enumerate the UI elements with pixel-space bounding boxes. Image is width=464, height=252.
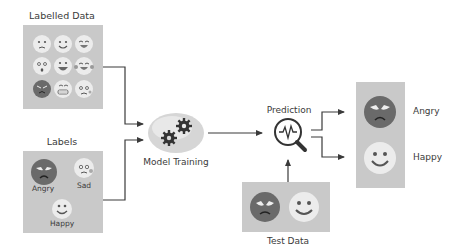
diagram-graphics: [0, 0, 464, 252]
label-angry-text: Angry: [32, 184, 54, 193]
test-data-faces: [250, 192, 319, 222]
prediction-node: [275, 119, 305, 150]
face-grimace-icon: [54, 80, 72, 98]
label-happy-face-icon: [52, 199, 72, 219]
model-training-node: [148, 113, 204, 153]
face-surprised-icon: [33, 57, 51, 75]
results-faces: [364, 96, 396, 174]
result-happy-label: Happy: [413, 152, 442, 162]
connector-lines: [103, 67, 344, 200]
label-sad-text: Sad: [77, 181, 91, 190]
test-angry-face-icon: [250, 192, 280, 222]
result-angry-label: Angry: [413, 106, 440, 116]
result-angry-face-icon: [364, 96, 396, 128]
magnifier-handle-icon: [297, 142, 305, 150]
face-laugh-tears-icon: [74, 57, 94, 75]
face-angry-icon: [33, 80, 51, 98]
face-laugh-icon: [75, 35, 93, 53]
model-training-label: Model Training: [143, 157, 208, 167]
label-sad-face-icon: [74, 158, 94, 178]
label-angry-face-icon: [31, 159, 57, 185]
test-data-title: Test Data: [267, 236, 309, 246]
label-happy-text: Happy: [50, 219, 74, 228]
prediction-label: Prediction: [267, 105, 312, 115]
result-happy-face-icon: [364, 142, 396, 174]
face-smile-icon: [54, 35, 72, 53]
face-grin-icon: [54, 57, 72, 75]
labelled-data-faces: [33, 35, 94, 98]
test-happy-face-icon: [289, 192, 319, 222]
face-worried-icon: [75, 80, 93, 98]
face-confused-icon: [33, 35, 51, 53]
